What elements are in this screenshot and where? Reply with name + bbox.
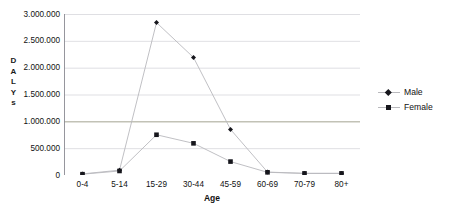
y-tick-label: 2.000.000 (14, 63, 60, 72)
x-tick-label: 60-69 (257, 180, 278, 190)
plot-area (64, 14, 360, 175)
legend-marker-diamond-icon (378, 87, 400, 98)
y-tick-label: 2.500.000 (14, 36, 60, 45)
x-tick-label: 5-14 (111, 180, 127, 190)
y-axis-tick-labels: 3.000.000 2.500.000 2.000.000 1.500.000 … (14, 0, 60, 212)
x-tick-label: 80+ (335, 180, 349, 190)
y-tick-label: 0 (14, 171, 60, 180)
x-tick-label: 70-79 (294, 180, 315, 190)
legend-marker-square-icon (378, 102, 400, 113)
y-tick-label: 1.000.000 (14, 117, 60, 126)
y-tick-label: 3.000.000 (14, 10, 60, 19)
x-tick-label: 15-29 (146, 180, 167, 190)
y-tick-label: 1.500.000 (14, 90, 60, 99)
chart-legend: Male Female (378, 85, 448, 115)
y-tick-label: 500.000 (14, 144, 60, 153)
x-axis-title: Age (64, 193, 360, 203)
legend-item-female[interactable]: Female (378, 100, 448, 115)
legend-label: Female (404, 102, 433, 113)
x-tick-label: 0-4 (77, 180, 89, 190)
legend-label: Male (404, 87, 423, 98)
chart-plot-svg (64, 14, 360, 175)
x-tick-label: 30-44 (183, 180, 204, 190)
chart-container: D A L Y s 3.000.000 2.500.000 2.000.000 … (0, 0, 450, 212)
legend-item-male[interactable]: Male (378, 85, 448, 100)
x-tick-label: 45-59 (220, 180, 241, 190)
x-axis-tick-labels: 0-45-1415-2930-4445-5960-6970-7980+ (64, 180, 360, 194)
